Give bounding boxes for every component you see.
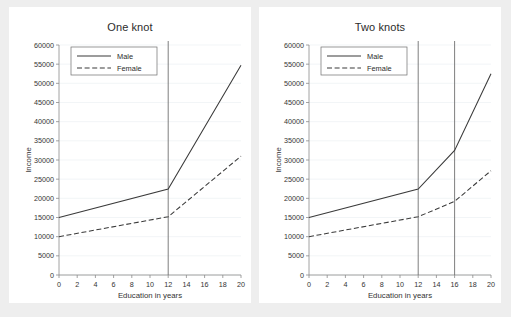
y-tick-label-3: 15000 [284,213,304,222]
y-tick-label-2: 10000 [34,232,54,241]
x-tick-label-5: 10 [396,280,404,289]
x-tick-label-0: 0 [57,280,61,289]
y-tick-label-7: 35000 [34,136,54,145]
x-tick-label-9: 18 [219,280,227,289]
x-tick-label-10: 20 [237,280,245,289]
x-tick-label-1: 2 [75,280,79,289]
panel-container: One knot 0500010000150002000025000300003… [9,7,502,303]
legend-box [321,47,407,75]
series-line-male [309,74,491,218]
x-tick-label-7: 14 [182,280,190,289]
y-tick-label-11: 55000 [34,60,54,69]
x-tick-label-9: 18 [469,280,477,289]
x-tick-label-3: 6 [362,280,366,289]
plot-canvas-two-knots: 0500010000150002000025000300003500040000… [259,7,501,303]
y-tick-label-12: 60000 [284,41,304,50]
y-axis-title: Income [274,147,283,173]
legend-box [71,47,157,75]
y-axis-title: Income [24,147,33,173]
y-tick-label-3: 15000 [34,213,54,222]
y-tick-label-5: 25000 [284,175,304,184]
y-tick-label-8: 40000 [284,117,304,126]
x-tick-label-4: 8 [130,280,134,289]
y-tick-label-12: 60000 [34,41,54,50]
y-tick-label-0: 0 [300,271,304,280]
x-tick-label-3: 6 [112,280,116,289]
series-line-female [309,171,491,237]
x-tick-label-6: 12 [164,280,172,289]
x-tick-label-7: 14 [432,280,440,289]
y-tick-label-10: 50000 [284,79,304,88]
y-tick-label-1: 5000 [38,251,54,260]
x-axis-title: Education in years [368,291,432,300]
x-tick-label-2: 4 [343,280,347,289]
panel-one-knot: One knot 0500010000150002000025000300003… [9,7,251,303]
y-tick-label-6: 30000 [34,156,54,165]
series-line-female [59,156,241,237]
x-tick-label-4: 8 [380,280,384,289]
y-tick-label-8: 40000 [34,117,54,126]
y-tick-label-11: 55000 [284,60,304,69]
x-tick-label-5: 10 [146,280,154,289]
legend-label-female: Female [117,64,142,73]
y-tick-label-9: 45000 [34,98,54,107]
y-tick-label-4: 20000 [284,194,304,203]
y-tick-label-9: 45000 [284,98,304,107]
y-tick-label-4: 20000 [34,194,54,203]
x-axis-title: Education in years [118,291,182,300]
figure-root: One knot 0500010000150002000025000300003… [0,0,511,317]
y-tick-label-7: 35000 [284,136,304,145]
y-tick-label-1: 5000 [288,251,304,260]
panel-two-knots: Two knots 050001000015000200002500030000… [259,7,501,303]
x-tick-label-0: 0 [307,280,311,289]
y-tick-label-2: 10000 [284,232,304,241]
y-tick-label-0: 0 [50,271,54,280]
legend-label-male: Male [117,52,133,61]
plot-canvas-one-knot: 0500010000150002000025000300003500040000… [9,7,251,303]
x-tick-label-2: 4 [93,280,97,289]
x-tick-label-8: 16 [451,280,459,289]
x-tick-label-8: 16 [201,280,209,289]
legend-label-female: Female [367,64,392,73]
y-tick-label-10: 50000 [34,79,54,88]
legend-label-male: Male [367,52,383,61]
x-tick-label-10: 20 [487,280,495,289]
y-tick-label-6: 30000 [284,156,304,165]
y-tick-label-5: 25000 [34,175,54,184]
x-tick-label-1: 2 [325,280,329,289]
x-tick-label-6: 12 [414,280,422,289]
series-line-male [59,65,241,217]
